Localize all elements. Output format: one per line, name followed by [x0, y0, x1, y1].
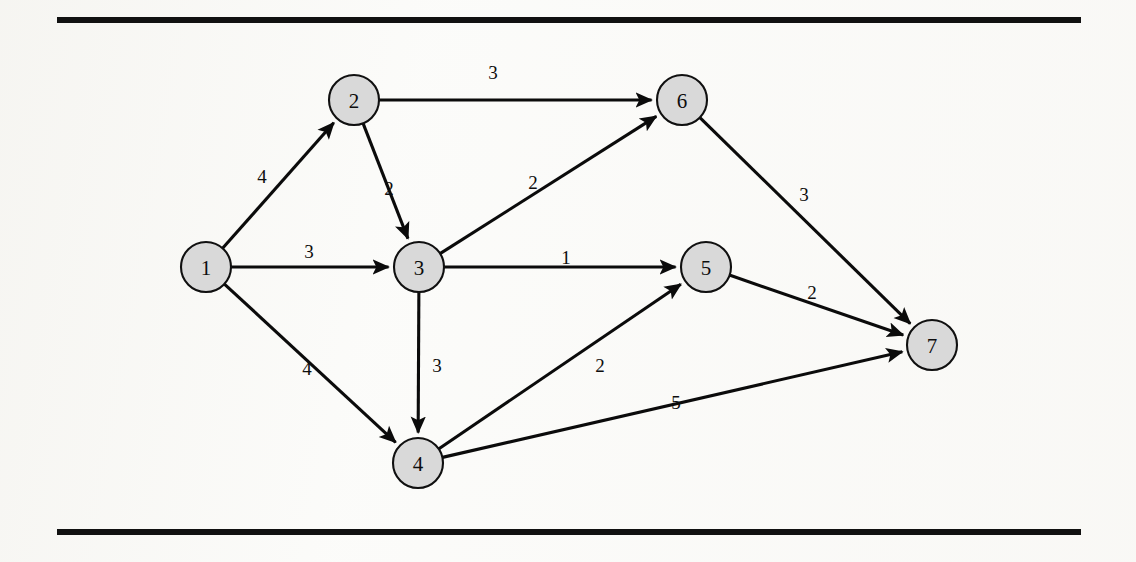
- edge-weight-1-4: 4: [302, 358, 312, 379]
- node-1: 1: [181, 242, 231, 292]
- node-label-6: 6: [677, 89, 688, 113]
- node-2: 2: [329, 75, 379, 125]
- node-label-7: 7: [927, 334, 938, 358]
- edges-layer: [222, 100, 910, 458]
- edge-weight-6-7: 3: [799, 184, 809, 205]
- nodes-layer: 1234567: [181, 75, 957, 488]
- node-label-5: 5: [701, 256, 712, 280]
- edge-weight-3-5: 1: [561, 247, 571, 268]
- edge-weight-5-7: 2: [807, 282, 817, 303]
- edge-weight-4-7: 5: [671, 392, 681, 413]
- edge-weight-1-2: 4: [257, 166, 267, 187]
- edge-weight-2-6: 3: [488, 62, 498, 83]
- edge-6-to-7: [699, 117, 910, 324]
- edge-4-to-5: [438, 284, 681, 449]
- edge-weight-1-3: 3: [304, 241, 314, 262]
- node-4: 4: [393, 438, 443, 488]
- edge-weight-4-5: 2: [595, 355, 605, 376]
- graph-canvas: 434322132523 1234567: [0, 0, 1136, 562]
- figure-page: 434322132523 1234567: [0, 0, 1136, 562]
- edge-weight-2-3: 2: [384, 178, 394, 199]
- edge-3-to-4: [418, 291, 419, 433]
- node-3: 3: [394, 242, 444, 292]
- node-7: 7: [907, 320, 957, 370]
- edge-weight-3-4: 3: [432, 355, 442, 376]
- node-5: 5: [681, 242, 731, 292]
- node-label-4: 4: [413, 452, 424, 476]
- node-label-2: 2: [349, 89, 360, 113]
- node-label-1: 1: [201, 256, 212, 280]
- edge-1-to-2: [222, 123, 334, 249]
- node-label-3: 3: [414, 256, 425, 280]
- edge-3-to-6: [439, 116, 656, 254]
- edge-weight-3-6: 2: [528, 172, 538, 193]
- node-6: 6: [657, 75, 707, 125]
